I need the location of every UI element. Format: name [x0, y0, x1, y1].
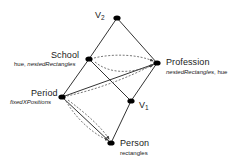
- dashed-school-profession-lower: [95, 62, 153, 71]
- node-label-v2: V2: [95, 10, 105, 21]
- edge-period-profession: [62, 63, 157, 97]
- node-label-v1: V1: [139, 100, 149, 111]
- node-label-subscript-v1: 1: [145, 104, 149, 111]
- node-period[interactable]: [58, 94, 65, 99]
- node-person[interactable]: [107, 140, 114, 145]
- node-v1[interactable]: [127, 98, 134, 103]
- node-profession[interactable]: [153, 60, 160, 65]
- node-annotation-profession: nestedRectangles, hue: [166, 69, 227, 76]
- edge-v1-person: [111, 101, 131, 143]
- node-label-person: Person: [120, 138, 149, 148]
- annotation-part-plain: hue,: [14, 61, 27, 67]
- node-annotation-person: rectangles: [120, 150, 148, 157]
- diagram-canvas: V2Schoolhue, nestedRectanglesProfessionn…: [0, 0, 242, 165]
- dashed-school-profession-upper: [94, 55, 153, 61]
- annotation-part-italic: nestedRectangles: [27, 61, 75, 67]
- node-annotation-period: fixedXPositions: [10, 99, 51, 106]
- node-v2[interactable]: [113, 15, 120, 20]
- annotation-part-italic: fixedXPositions: [10, 99, 51, 105]
- edge-period-person: [62, 97, 111, 143]
- node-label-profession: Profession: [166, 57, 210, 67]
- node-school[interactable]: [85, 56, 92, 61]
- annotation-part-plain: rectangles: [120, 150, 148, 156]
- edge-v2-profession: [117, 18, 157, 63]
- node-label-school: School: [51, 50, 79, 60]
- node-annotation-school: hue, nestedRectangles: [14, 61, 75, 68]
- annotation-part-italic: nestedRectangles: [166, 69, 214, 75]
- annotation-part-plain: , hue: [214, 69, 227, 75]
- edge-v1-profession: [131, 63, 157, 101]
- dashed-period-person-inner: [68, 100, 109, 139]
- solid-edges: [62, 18, 157, 143]
- edge-v2-school: [89, 18, 117, 59]
- node-label-subscript-v2: 2: [101, 14, 105, 21]
- node-label-period: Period: [31, 88, 58, 98]
- dashed-edges: [66, 55, 153, 140]
